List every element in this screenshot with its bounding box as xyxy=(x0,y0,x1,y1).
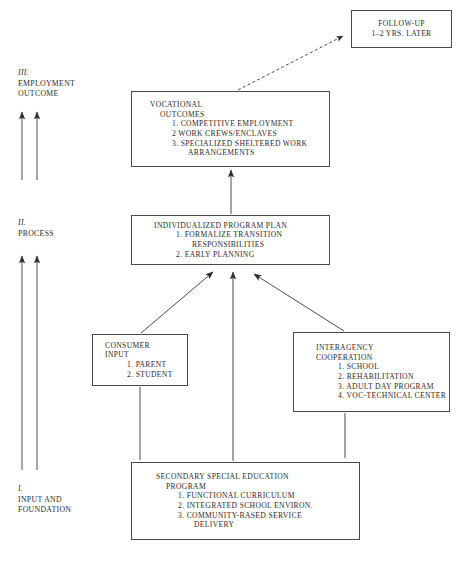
node-secondary-item-2: 2. INTEGRATED SCHOOL ENVIRON. xyxy=(156,501,313,511)
figure-caption xyxy=(6,552,454,561)
node-secondary-title-line2: PROGRAM xyxy=(156,482,206,492)
node-vocational-outcomes: VOCATIONAL OUTCOMES 1. COMPETITIVE EMPLO… xyxy=(131,91,330,167)
stage-numeral-ii: II. xyxy=(18,218,54,229)
node-consumer-item-2: 2. STUDENT xyxy=(105,370,173,380)
stage-label-process: II. PROCESS xyxy=(18,218,54,239)
stage-arrow-group-employment xyxy=(22,112,37,180)
node-follow-up-title-line2: 1–2 YRS. LATER xyxy=(371,29,431,39)
node-consumer-title-line1: CONSUMER xyxy=(105,341,150,351)
stage-numeral-iii: III. xyxy=(18,68,75,79)
node-interagency-item-1: 1. SCHOOL xyxy=(316,362,379,372)
node-vocational-item-3: 3. SPECIALIZED SHELTERED WORK xyxy=(150,139,307,149)
node-consumer-item-1: 1. PARENT xyxy=(105,360,167,370)
node-secondary-special-education-program: SECONDARY SPECIAL EDUCATION PROGRAM 1. F… xyxy=(131,462,360,540)
node-vocational-item-3-cont: ARRANGEMENTS xyxy=(150,148,255,158)
connector-vocational-to-followup xyxy=(238,36,343,90)
node-individualized-program-plan: INDIVIDUALIZED PROGRAM PLAN 1. FORMALIZE… xyxy=(131,215,330,265)
stage-name-iii-line2: OUTCOME xyxy=(18,89,75,100)
node-follow-up: FOLLOW-UP 1–2 YRS. LATER xyxy=(351,10,452,48)
stage-numeral-i: I. xyxy=(18,484,71,495)
node-interagency-item-2: 2. REHABILITATION xyxy=(316,372,414,382)
diagram-canvas: III. EMPLOYMENT OUTCOME II. PROCESS I. I… xyxy=(0,0,460,561)
stage-name-i-line2: FOUNDATION xyxy=(18,505,71,516)
node-ipp-title-line1: INDIVIDUALIZED PROGRAM PLAN xyxy=(154,221,287,231)
node-secondary-item-3: 3. COMMUNITY-BASED SERVICE xyxy=(156,511,302,521)
node-interagency-title-line1: INTERAGENCY xyxy=(316,343,374,353)
node-ipp-item-2: 2. EARLY PLANNING xyxy=(154,250,255,260)
node-secondary-item-1: 1. FUNCTIONAL CURRICULUM xyxy=(156,491,295,501)
stage-name-ii-line1: PROCESS xyxy=(18,229,54,240)
node-consumer-title-line2: INPUT xyxy=(105,350,129,360)
node-vocational-title-line2: OUTCOMES xyxy=(150,110,205,120)
node-ipp-item-1: 1. FORMALIZE TRANSITION xyxy=(154,230,282,240)
node-vocational-item-2: 2 WORK CREWS/ENCLAVES xyxy=(150,129,277,139)
node-interagency-title-line2: COOPERATION xyxy=(316,353,373,363)
stage-name-i-line1: INPUT AND xyxy=(18,495,71,506)
connector-interagency-to-ipp xyxy=(254,274,344,331)
stage-name-iii-line1: EMPLOYMENT xyxy=(18,79,75,90)
node-vocational-title-line1: VOCATIONAL xyxy=(150,100,202,110)
node-vocational-item-1: 1. COMPETITIVE EMPLOYMENT xyxy=(150,119,294,129)
connector-consumer-to-ipp xyxy=(141,272,213,333)
node-secondary-item-3-cont: DELIVERY xyxy=(156,520,234,530)
node-ipp-item-1-cont: RESPONSIBILITIES xyxy=(154,240,264,250)
node-interagency-item-3: 3. ADULT DAY PROGRAM xyxy=(316,382,434,392)
stage-label-employment-outcome: III. EMPLOYMENT OUTCOME xyxy=(18,68,75,100)
node-secondary-title-line1: SECONDARY SPECIAL EDUCATION xyxy=(156,472,289,482)
stage-label-input-and-foundation: I. INPUT AND FOUNDATION xyxy=(18,484,71,516)
node-interagency-item-4: 4. VOC-TECHNICAL CENTER xyxy=(316,391,446,401)
stage-arrow-group-process xyxy=(22,256,37,470)
node-consumer-input: CONSUMER INPUT 1. PARENT 2. STUDENT xyxy=(92,334,188,386)
node-interagency-cooperation: INTERAGENCY COOPERATION 1. SCHOOL 2. REH… xyxy=(293,332,450,412)
node-follow-up-title-line1: FOLLOW-UP xyxy=(378,19,425,29)
